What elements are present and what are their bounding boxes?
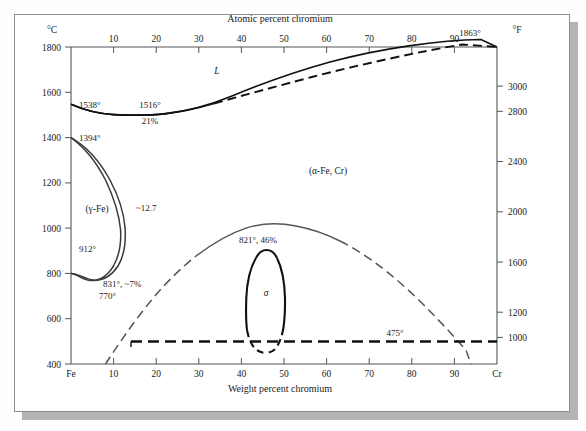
bottom-tick-label: 90 [450,369,460,379]
left-tick-label: 800 [47,269,62,279]
annotation-gamma-top: 1394° [79,133,101,143]
top-axis-title: Atomic percent chromium [227,13,333,24]
bottom-tick-label: 20 [151,369,161,379]
bottom-axis-tick-labels: 10 20 30 40 50 60 70 80 90 [109,369,460,379]
annotation-gamma-max-comp: ~12.7 [136,203,157,213]
left-axis-tick-labels: 1800 1600 1400 1200 1000 800 600 400 [42,43,61,370]
right-axis-unit-label: °F [512,25,521,35]
figure-root: 10 20 30 40 50 60 70 80 90 Atomic percen… [0,0,586,431]
annotation-sigma-top: 821°, 46% [239,235,278,245]
left-tick-label: 1400 [42,133,61,143]
annotation-gamma-bottom: 912° [79,244,97,254]
bottom-axis-title: Weight percent chromium [228,383,332,394]
right-axis-ticks [497,86,503,337]
bottom-tick-label: 50 [279,369,289,379]
bottom-tick-label: 40 [237,369,247,379]
right-tick-label: 2400 [508,157,527,167]
annotation-minimum-comp: 21% [142,116,159,126]
bottom-tick-label: 80 [407,369,417,379]
top-tick-label: 80 [407,34,417,44]
left-tick-label: 600 [47,314,62,324]
right-tick-label: 3000 [508,82,527,92]
bottom-tick-label: 30 [194,369,204,379]
bottom-tick-label: 10 [109,369,119,379]
annotation-peritectoid: 831°, ~7% [103,279,142,289]
phase-diagram-canvas: 10 20 30 40 50 60 70 80 90 Atomic percen… [0,0,586,431]
right-tick-label: 2000 [508,207,527,217]
phase-label-liquid: L [213,66,219,76]
right-tick-label: 1600 [508,258,527,268]
top-tick-label: 90 [450,34,460,44]
left-axis-ticks [65,47,71,364]
left-tick-label: 400 [47,360,62,370]
left-tick-label: 1600 [42,88,61,98]
left-tick-label: 1000 [42,224,61,234]
annotation-minimum-temp: 1516° [139,100,161,110]
phase-label-sigma: σ [264,288,269,298]
top-tick-label: 60 [322,34,332,44]
right-tick-label: 2800 [508,107,527,117]
bottom-tick-label: 70 [364,369,374,379]
sigma-solvus-left-dashed [106,256,197,364]
bottom-axis-left-endpoint-label: Fe [66,369,76,379]
sigma-field-right-wall-solid [277,258,285,328]
solidus-curve-dashed-segment [214,45,497,104]
right-tick-label: 1000 [508,333,527,343]
top-tick-label: 30 [194,34,204,44]
annotation-cr-melting: 1863° [459,28,481,38]
sigma-field-top-cap [256,250,277,258]
right-tick-label: 1200 [508,308,527,318]
bottom-tick-label: 60 [322,369,332,379]
top-axis-ticks [114,47,455,53]
phase-label-alpha-fe-cr: (α-Fe, Cr) [309,166,347,177]
left-tick-label: 1200 [42,178,61,188]
left-axis-unit-label: °C [47,25,57,35]
top-tick-label: 20 [151,34,161,44]
annotation-sigma-eutectoid: 475° [386,328,404,338]
sigma-field-left-wall-solid [246,258,256,330]
top-tick-label: 10 [109,34,119,44]
top-tick-label: 70 [364,34,374,44]
right-axis-tick-labels: 3000 2800 2400 2000 1600 1200 1000 [508,82,527,343]
top-tick-label: 40 [237,34,247,44]
bottom-axis-ticks [114,358,455,364]
top-axis-tick-labels: 10 20 30 40 50 60 70 80 90 [109,34,460,44]
top-tick-label: 50 [279,34,289,44]
annotation-curie: 770° [99,291,117,301]
sigma-solvus-right-dashed [340,241,471,364]
annotation-fe-melting: 1538° [79,100,101,110]
bottom-axis-right-endpoint-label: Cr [492,369,502,379]
phase-label-gamma-fe: (γ-Fe) [85,204,108,215]
left-tick-label: 1800 [42,43,61,53]
